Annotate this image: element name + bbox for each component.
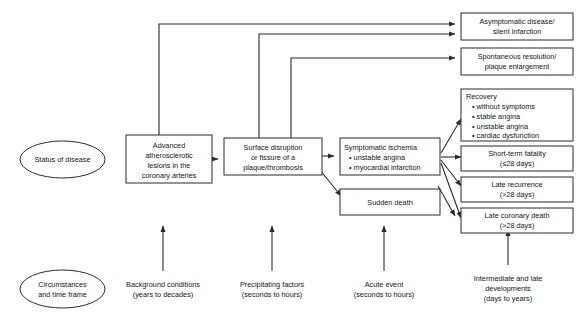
edge-ischemia-to-recovery <box>441 119 461 153</box>
node-spontaneous-resolution: Spontaneous resolution/ plaque enlargeme… <box>461 48 573 75</box>
node-asymptomatic-disease: Asymptomatic disease/ silent infarction <box>461 13 573 40</box>
node-advanced-lesions: Advanced atherosclerotic lesions in the … <box>126 135 212 183</box>
advanced-lesions-line1: Advanced <box>153 141 185 150</box>
advanced-lesions-line3: lesions in the <box>148 161 191 170</box>
timeframe-intermediate-line3: (days to years) <box>484 294 532 303</box>
circumstances-ellipse <box>20 270 105 308</box>
node-recovery: Recovery • without symptoms • stable ang… <box>461 89 573 141</box>
timeframe-background-conditions: Background conditions (years to decades) <box>126 280 200 299</box>
late-recurrence-line2: (>28 days) <box>500 190 535 199</box>
timeframe-precipitating-line1: Precipitating factors <box>240 280 304 289</box>
edge-disruption-to-asymptomatic <box>259 34 455 138</box>
node-short-term-fatality: Short-term fatality (≤28 days) <box>461 146 573 171</box>
sudden-death-label: Sudden death <box>367 198 412 207</box>
edge-disruption-to-sudden-death <box>320 170 341 196</box>
symptomatic-ischemia-title: Symptomatic ischemia <box>344 143 418 152</box>
status-of-disease-label: Status of disease <box>35 155 91 164</box>
symptomatic-ischemia-bullet-unstable-angina: • unstable angina <box>349 153 406 162</box>
surface-disruption-line3: plaque/thrombosis <box>243 163 303 172</box>
circumstances-label-line1: Circumstances <box>38 280 87 289</box>
node-late-coronary-death: Late coronary death (>28 days) <box>461 208 573 233</box>
surface-disruption-line1: Surface disruption <box>244 143 303 152</box>
status-of-disease-ellipse-group: Status of disease <box>20 141 105 178</box>
recovery-bullet-stable-angina: • stable angina <box>472 112 521 121</box>
edge-lesions-to-asymptomatic <box>159 24 455 135</box>
timeframe-intermediate-line1: Intermediate and late <box>474 274 543 283</box>
edge-disruption-to-spontaneous <box>291 58 455 138</box>
timeframe-acute-line1: Acute event <box>365 280 404 289</box>
advanced-lesions-line4: coronary arteries <box>142 171 197 180</box>
timeframe-acute-event: Acute event (seconds to hours) <box>354 280 414 299</box>
short-term-fatality-line1: Short-term fatality <box>488 149 546 158</box>
short-term-fatality-line2: (≤28 days) <box>500 159 534 168</box>
recovery-bullet-cardiac-dysfunction: • cardiac dysfunction <box>472 131 539 140</box>
edge-sudden-death-to-late-coronary-death <box>438 186 455 216</box>
asymptomatic-disease-line1: Asymptomatic disease/ <box>479 17 555 26</box>
edge-ischemia-to-late-recurrence <box>441 160 461 186</box>
late-recurrence-line1: Late recurrence <box>491 180 542 189</box>
node-late-recurrence: Late recurrence (>28 days) <box>461 177 573 202</box>
node-sudden-death: Sudden death <box>340 189 440 215</box>
symptomatic-ischemia-bullet-myocardial-infarction: • myocardial infarction <box>349 163 421 172</box>
late-coronary-death-line2: (>28 days) <box>500 221 535 230</box>
timeframe-precipitating-factors: Precipitating factors (seconds to hours) <box>240 280 304 299</box>
surface-disruption-line2: or fissure of a <box>251 153 296 162</box>
circumstances-ellipse-group: Circumstances and time frame <box>20 270 105 308</box>
late-coronary-death-line1: Late coronary death <box>485 211 550 220</box>
coronary-heart-disease-flow-diagram: Status of disease Circumstances and time… <box>0 0 577 323</box>
timeframe-background-line1: Background conditions <box>126 280 200 289</box>
node-symptomatic-ischemia: Symptomatic ischemia • unstable angina •… <box>340 138 440 175</box>
spontaneous-resolution-line2: plaque enlargement <box>485 62 550 71</box>
recovery-bullet-unstable-angina: • unstable angina <box>472 122 529 131</box>
timeframe-intermediate-line2: developments <box>485 284 531 293</box>
recovery-title: Recovery <box>466 92 497 101</box>
recovery-bullet-without-symptoms: • without symptoms <box>472 102 535 111</box>
node-surface-disruption: Surface disruption or fissure of a plaqu… <box>224 138 322 175</box>
spontaneous-resolution-line1: Spontaneous resolution/ <box>478 52 558 61</box>
timeframe-acute-line2: (seconds to hours) <box>354 290 414 299</box>
timeframe-background-line2: (years to decades) <box>133 290 193 299</box>
timeframe-precipitating-line2: (seconds to hours) <box>242 290 302 299</box>
asymptomatic-disease-line2: silent infarction <box>493 27 542 36</box>
circumstances-label-line2: and time frame <box>38 290 87 299</box>
timeframe-intermediate-developments: Intermediate and late developments (days… <box>474 274 543 303</box>
advanced-lesions-line2: atherosclerotic <box>145 151 193 160</box>
